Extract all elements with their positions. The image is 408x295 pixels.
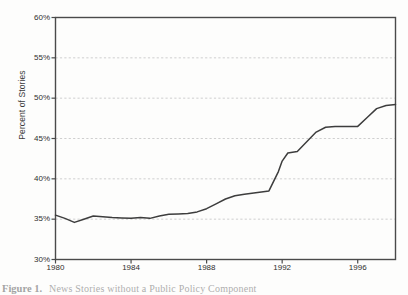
x-axis-tick-labels: 19801984198819921996 bbox=[0, 263, 408, 277]
data-series-line bbox=[56, 105, 396, 223]
x-tick-label: 1988 bbox=[187, 263, 227, 272]
x-tick-label: 1992 bbox=[262, 263, 302, 272]
x-tick-label: 1996 bbox=[338, 263, 378, 272]
x-tick-label: 1984 bbox=[111, 263, 151, 272]
axis-lines bbox=[56, 18, 396, 260]
caption-text: News Stories without a Public Policy Com… bbox=[49, 283, 257, 294]
caption-number: Figure 1. bbox=[2, 283, 42, 294]
figure-caption: Figure 1.News Stories without a Public P… bbox=[2, 283, 406, 295]
chart-plot-area bbox=[0, 0, 408, 282]
chart-figure: Percent of Stories 60%55%50%45%40%35%30%… bbox=[0, 0, 408, 282]
figure-page: Percent of Stories 60%55%50%45%40%35%30%… bbox=[0, 0, 408, 295]
x-tick-label: 1980 bbox=[36, 263, 76, 272]
gridlines bbox=[56, 58, 396, 219]
